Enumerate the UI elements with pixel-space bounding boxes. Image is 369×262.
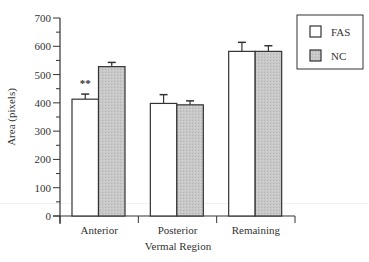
x-tick-label: Posterior (158, 224, 198, 236)
annotations: ** (80, 77, 92, 89)
legend-box (297, 15, 363, 69)
bar-nc-anterior (99, 62, 126, 216)
y-tick-label: 600 (35, 40, 52, 52)
bar-fas-remaining (229, 42, 256, 216)
y-tick-label: 0 (46, 210, 52, 222)
y-tick-label: 500 (35, 69, 52, 81)
legend-label: NC (331, 50, 346, 62)
bar-chart: 0100200300400500600700 AnteriorPosterior… (0, 0, 369, 262)
bar-nc-remaining (255, 46, 282, 216)
y-tick-label: 700 (35, 12, 52, 24)
bar-nc-posterior (177, 101, 204, 216)
legend-swatch-nc (310, 50, 321, 61)
y-axis: 0100200300400500600700 (35, 12, 61, 224)
x-axis-label: Vermal Region (145, 240, 212, 252)
legend-swatch-fas (310, 26, 321, 37)
y-tick-label: 100 (35, 182, 52, 194)
y-axis-label: Area (pixels) (5, 88, 18, 146)
bars (72, 42, 282, 216)
significance-marker: ** (80, 77, 92, 89)
y-tick-label: 400 (35, 97, 52, 109)
bar-fas-anterior (72, 94, 99, 216)
y-tick-label: 200 (35, 153, 52, 165)
legend: FASNC (297, 15, 363, 69)
y-tick-label: 300 (35, 125, 52, 137)
bar-fas-posterior (150, 95, 177, 216)
x-tick-label: Remaining (232, 224, 281, 236)
x-axis: AnteriorPosteriorRemaining (53, 216, 295, 236)
x-tick-label: Anterior (81, 224, 119, 236)
legend-label: FAS (331, 26, 350, 38)
